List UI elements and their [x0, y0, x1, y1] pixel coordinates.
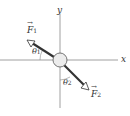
force1-arrowhead	[27, 40, 35, 47]
theta2-label: θ2	[63, 79, 72, 87]
diagram-graphics	[0, 0, 130, 116]
force-diagram: y x F1 F2 θ1 θ2	[0, 0, 130, 116]
force1-label: F1	[27, 26, 37, 35]
particle	[53, 53, 67, 67]
theta1-label: θ1	[32, 48, 41, 56]
y-axis-label: y	[57, 6, 62, 15]
x-axis-label: x	[121, 55, 126, 64]
force2-label: F2	[91, 90, 101, 99]
